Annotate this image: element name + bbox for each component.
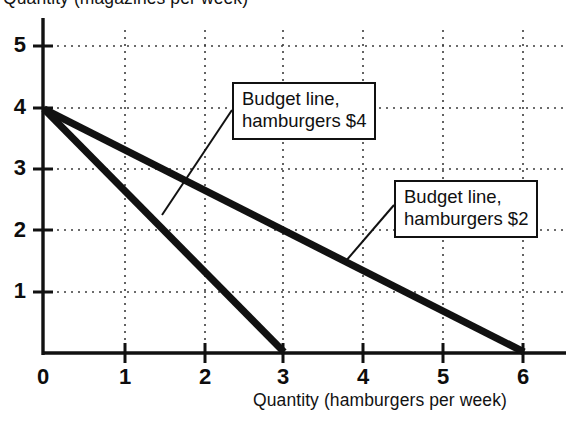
- chart-figure: .gridline { stroke: #3d3d3d; stroke-widt…: [0, 0, 570, 422]
- y-tick-label-2: 2: [0, 219, 26, 241]
- y-tick-label-3: 3: [0, 157, 26, 179]
- callout-2-line-1: Budget line,: [404, 186, 502, 207]
- x-tick-label-3: 3: [270, 366, 296, 388]
- x-tick-label-1: 1: [112, 366, 138, 388]
- callout-budget-line-2: Budget line, hamburgers $2: [394, 180, 538, 238]
- callout-2-line-2: hamburgers $2: [404, 208, 528, 230]
- y-axis-title: Quantity (magazines per week): [3, 0, 248, 9]
- x-tick-label-0: 0: [30, 366, 56, 388]
- y-tick-label-1: 1: [0, 280, 26, 302]
- x-axis-title: Quantity (hamburgers per week): [253, 390, 507, 411]
- leader-line-callout-2: [345, 205, 394, 262]
- x-tick-label-5: 5: [430, 366, 456, 388]
- x-tick-label-2: 2: [192, 366, 218, 388]
- callout-1-line-1: Budget line,: [242, 88, 340, 109]
- callout-budget-line-4: Budget line, hamburgers $4: [232, 82, 376, 140]
- x-tick-label-4: 4: [350, 366, 376, 388]
- y-tick-label-5: 5: [0, 34, 26, 56]
- callout-1-line-2: hamburgers $4: [242, 110, 366, 132]
- x-tick-label-6: 6: [510, 366, 536, 388]
- y-tick-label-4: 4: [0, 96, 26, 118]
